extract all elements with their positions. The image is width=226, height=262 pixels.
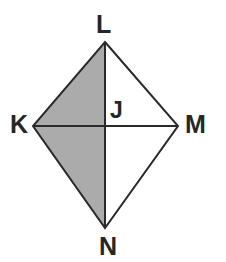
vertex-label-M: M [185, 112, 206, 137]
vertex-label-K: K [10, 112, 28, 137]
vertex-label-L: L [96, 12, 111, 37]
vertex-label-J: J [110, 99, 123, 122]
vertex-label-N: N [99, 234, 117, 259]
shaded-triangle-region-KLN [33, 42, 105, 228]
geometry-figure-canvas: L K M N J [0, 0, 226, 262]
